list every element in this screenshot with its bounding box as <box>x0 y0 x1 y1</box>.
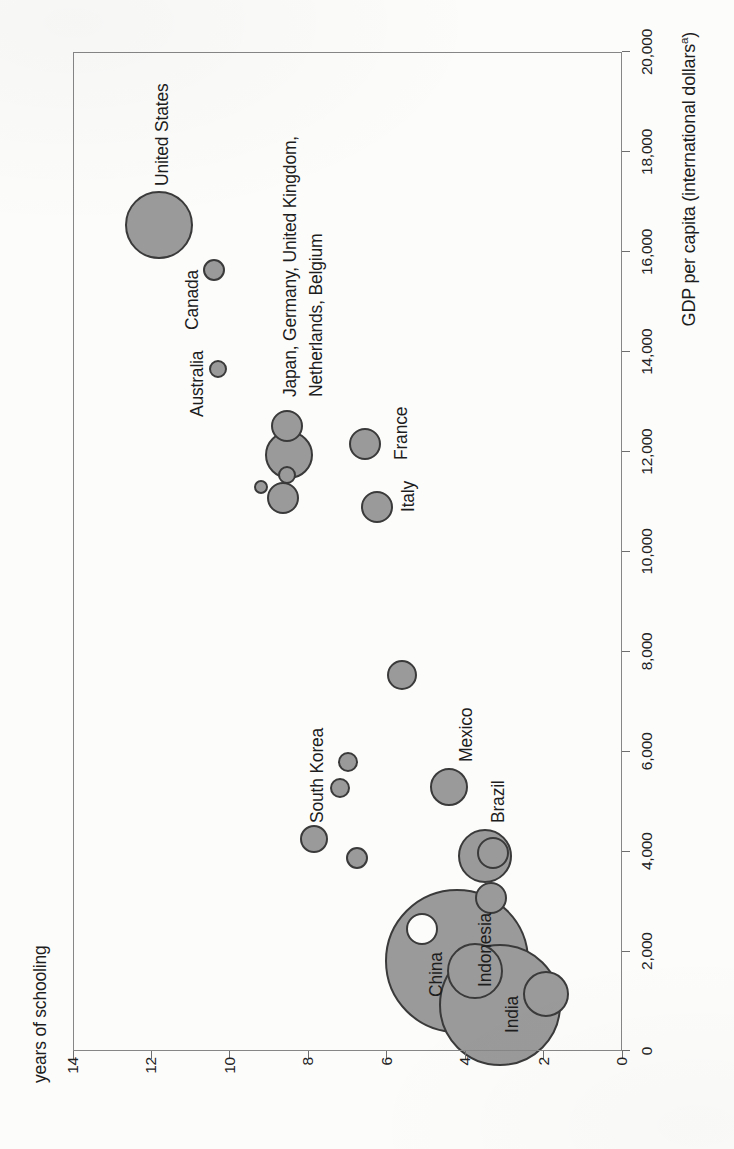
cluster-label-line2: Netherlands, Belgium <box>306 234 327 397</box>
united-states-label: United States <box>152 84 173 186</box>
italy-label: Italy <box>398 481 419 512</box>
x-axis-title-footnote-marker: a <box>678 38 690 44</box>
brazil-label: Brazil <box>488 780 509 823</box>
x-axis-title-text: GDP per capita (international dollars <box>679 44 699 326</box>
cluster-label-line1: Japan, Germany, United Kingdom, <box>280 136 301 397</box>
south-korea-label: South Korea <box>307 728 328 823</box>
scanned-book-page: 02,0004,0006,0008,00010,00012,00014,0001… <box>0 0 734 1149</box>
bubble-chart-rotated: 02,0004,0006,0008,00010,00012,00014,0001… <box>0 0 734 1149</box>
indonesia-label: Indonesia <box>475 913 496 987</box>
y-axis-title: years of schooling <box>30 946 51 1083</box>
x-axis-title-close-paren: ) <box>679 32 699 38</box>
x-axis-title: GDP per capita (international dollarsa) <box>679 32 700 326</box>
india-label: India <box>502 996 523 1033</box>
china-label: China <box>426 952 447 997</box>
annotation-layer: years of schooling GDP per capita (inter… <box>0 0 734 1149</box>
mexico-label: Mexico <box>456 708 477 762</box>
canada-label: Canada <box>182 270 203 330</box>
france-label: France <box>391 407 412 460</box>
australia-label: Australia <box>187 351 208 417</box>
